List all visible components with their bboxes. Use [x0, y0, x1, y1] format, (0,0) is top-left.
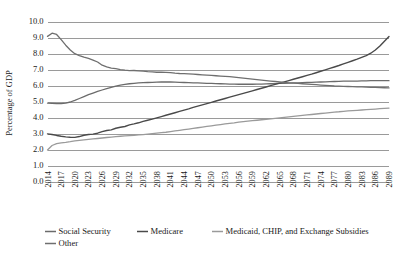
y-axis-title-group: Percentage of GDP	[4, 70, 14, 136]
y-tick-label: 10.0	[29, 16, 44, 26]
x-tick-label: 2089	[385, 171, 394, 187]
x-tick-label: 2056	[235, 171, 244, 187]
x-tick-label: 2041	[166, 171, 175, 187]
y-tick-labels-group: 0.01.02.03.04.05.06.07.08.09.010.0	[29, 16, 44, 186]
gridlines-group	[48, 22, 390, 182]
x-tick-label: 2074	[317, 171, 326, 187]
legend-item: Social Security	[45, 226, 111, 236]
y-tick-label: 2.0	[33, 144, 44, 154]
y-tick-label: 8.0	[33, 48, 44, 58]
x-tick-label: 2065	[276, 171, 285, 187]
x-tick-label: 2059	[248, 171, 257, 187]
x-tick-label: 2032	[125, 171, 134, 187]
x-tick-label: 2050	[207, 171, 216, 187]
y-tick-label: 6.0	[33, 80, 44, 90]
x-tick-labels-group: 2014201720202023202620292032203520382041…	[44, 171, 395, 187]
legend-label: Other	[59, 238, 79, 248]
legend-label: Medicare	[151, 226, 184, 236]
x-tick-label: 2071	[303, 171, 312, 187]
legend-item: Medicaid, CHIP, and Exchange Subsidies	[212, 226, 369, 236]
legend-item: Medicare	[137, 226, 183, 236]
y-tick-label: 1.0	[33, 160, 44, 170]
x-tick-label: 2077	[330, 171, 339, 187]
y-tick-label: 9.0	[33, 32, 44, 42]
legend: Social SecurityMedicareMedicaid, CHIP, a…	[45, 226, 369, 248]
x-tick-label: 2023	[84, 171, 93, 187]
series-line-3	[48, 33, 390, 88]
y-tick-label: 5.0	[33, 96, 44, 106]
x-tick-label: 2026	[98, 171, 107, 187]
x-tick-label: 2086	[371, 171, 380, 187]
x-tick-label: 2047	[194, 171, 203, 187]
x-tick-label: 2068	[289, 171, 298, 187]
x-tick-label: 2014	[44, 171, 53, 187]
chart-figure: Percentage of GDP 0.01.02.03.04.05.06.07…	[0, 0, 407, 261]
percentage-of-gdp-line-chart: Percentage of GDP 0.01.02.03.04.05.06.07…	[0, 0, 407, 261]
x-tick-label: 2044	[180, 171, 189, 187]
series-line-1	[48, 36, 390, 137]
y-tick-label: 3.0	[33, 128, 44, 138]
y-tick-label: 7.0	[33, 64, 44, 74]
x-tick-label: 2029	[112, 171, 121, 187]
x-tick-label: 2017	[57, 171, 66, 187]
y-tick-label: 0.0	[33, 176, 44, 186]
y-tick-label: 4.0	[33, 112, 44, 122]
x-tick-label: 2020	[71, 171, 80, 187]
y-axis-title: Percentage of GDP	[4, 70, 14, 136]
x-tick-label: 2038	[153, 171, 162, 187]
series-line-2	[48, 108, 390, 150]
x-tick-label: 2035	[139, 171, 148, 187]
series-paths-group	[48, 33, 390, 150]
x-tick-label: 2053	[221, 171, 230, 187]
x-tick-label: 2062	[262, 171, 271, 187]
legend-label: Medicaid, CHIP, and Exchange Subsidies	[226, 226, 370, 236]
legend-label: Social Security	[59, 226, 112, 236]
x-tick-label: 2080	[344, 171, 353, 187]
x-tick-label: 2083	[358, 171, 367, 187]
legend-item: Other	[45, 238, 78, 248]
